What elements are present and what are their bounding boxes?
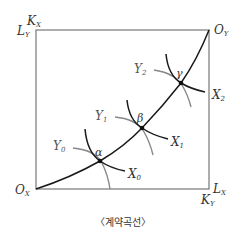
y-indifference-curve-0	[73, 148, 110, 189]
label-y0: Y0	[53, 139, 66, 154]
label-y1: Y1	[95, 109, 107, 124]
label-gamma: γ	[176, 67, 183, 80]
point-gamma	[179, 81, 184, 86]
label-ox: OX	[15, 183, 31, 198]
label-x1: X1	[170, 135, 184, 150]
point-beta	[140, 126, 145, 131]
contract-curve	[36, 30, 209, 189]
label-x0: X0	[127, 167, 142, 182]
label-x2: X2	[211, 88, 226, 103]
edgeworth-box	[36, 30, 209, 189]
label-beta: β	[136, 112, 143, 125]
label-alpha: α	[95, 146, 103, 159]
diagram-caption: 〈계약곡선〉	[95, 217, 151, 228]
point-alpha	[98, 159, 103, 164]
label-lx: LX	[212, 182, 227, 197]
x-indifference-curve-2	[166, 54, 205, 92]
edgeworth-box-diagram: α β γ KX LY OY OX LX KY Y0 Y1 Y2 X0 X1 X…	[0, 0, 245, 244]
label-oy: OY	[214, 23, 230, 38]
x-indifference-curve-0	[85, 129, 125, 171]
label-y2: Y2	[134, 62, 147, 77]
label-kx: KX	[26, 14, 42, 29]
